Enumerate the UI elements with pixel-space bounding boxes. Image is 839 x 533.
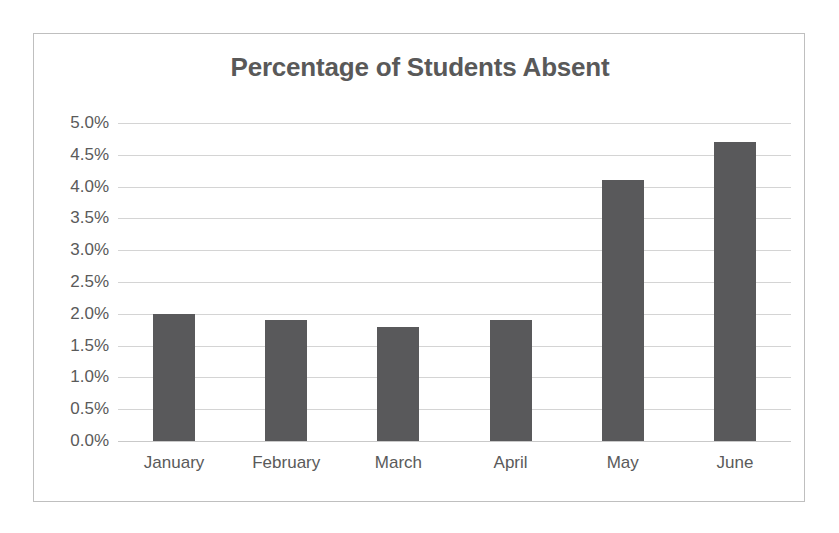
- y-axis-tick-label: 1.5%: [70, 336, 109, 356]
- x-axis-tick-label: April: [494, 453, 528, 473]
- y-axis-tick-label: 4.5%: [70, 145, 109, 165]
- bar-group: April: [455, 123, 567, 441]
- bar: [490, 320, 532, 441]
- x-axis-tick-label: June: [716, 453, 753, 473]
- bar-group: March: [342, 123, 454, 441]
- bar-group: June: [679, 123, 791, 441]
- x-axis-tick-label: January: [144, 453, 204, 473]
- x-axis-tick-label: February: [252, 453, 320, 473]
- bar: [153, 314, 195, 441]
- plot-area: 5.0%4.5%4.0%3.5%3.0%2.5%2.0%1.5%1.0%0.5%…: [118, 123, 791, 441]
- chart-title: Percentage of Students Absent: [34, 52, 806, 83]
- chart-frame: Percentage of Students Absent 5.0%4.5%4.…: [33, 33, 805, 502]
- y-axis-tick-label: 0.5%: [70, 399, 109, 419]
- bar-group: January: [118, 123, 230, 441]
- bar: [714, 142, 756, 441]
- bar: [265, 320, 307, 441]
- bar: [602, 180, 644, 441]
- x-axis-tick-label: March: [375, 453, 422, 473]
- y-axis-tick-label: 2.0%: [70, 304, 109, 324]
- bar-group: May: [567, 123, 679, 441]
- y-axis-tick-label: 3.5%: [70, 208, 109, 228]
- y-axis-tick-label: 4.0%: [70, 177, 109, 197]
- bar-group: February: [230, 123, 342, 441]
- bar: [377, 327, 419, 441]
- gridline: [118, 441, 791, 442]
- bar-series: JanuaryFebruaryMarchAprilMayJune: [118, 123, 791, 441]
- y-axis-tick-label: 2.5%: [70, 272, 109, 292]
- y-axis-tick-label: 3.0%: [70, 240, 109, 260]
- y-axis-tick-label: 5.0%: [70, 113, 109, 133]
- y-axis-tick-label: 0.0%: [70, 431, 109, 451]
- x-axis-tick-label: May: [607, 453, 639, 473]
- y-axis-tick-label: 1.0%: [70, 367, 109, 387]
